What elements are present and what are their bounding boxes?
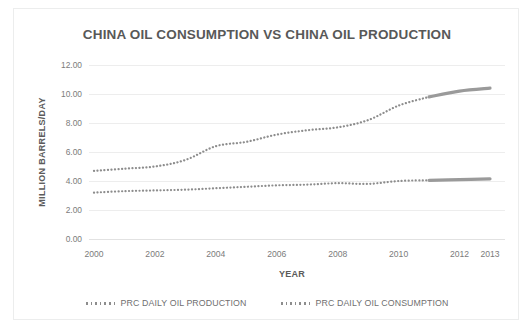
legend-swatch-consumption — [281, 302, 311, 305]
legend-label-production: PRC DAILY OIL PRODUCTION — [121, 298, 247, 308]
y-axis-tick-label: 12.00 — [61, 60, 82, 70]
x-axis-tick-label: 2010 — [389, 249, 408, 259]
x-axis-tick-label: 2008 — [328, 249, 347, 259]
x-axis-tick-label: 2004 — [206, 249, 225, 259]
y-axis-tick-label: 10.00 — [61, 89, 82, 99]
y-axis-tick-label: 0.00 — [66, 234, 83, 244]
y-axis-tick-label: 2.00 — [66, 205, 83, 215]
y-axis-tick-label: 8.00 — [66, 118, 83, 128]
y-axis-tick-label: 6.00 — [66, 147, 83, 157]
x-axis-tick-label: 2012 — [450, 249, 469, 259]
chart-legend: PRC DAILY OIL PRODUCTION PRC DAILY OIL C… — [14, 298, 520, 308]
x-axis-tick-label: 2002 — [145, 249, 164, 259]
x-axis-title: YEAR — [279, 269, 305, 279]
y-axis-tick-label: 4.00 — [66, 176, 83, 186]
x-axis-tick-label: 2006 — [267, 249, 286, 259]
legend-swatch-production — [86, 302, 116, 305]
chart-plot-area: 12.0010.008.006.004.002.000.002000200220… — [1, 1, 532, 336]
legend-label-consumption: PRC DAILY OIL CONSUMPTION — [316, 298, 449, 308]
legend-item-consumption[interactable]: PRC DAILY OIL CONSUMPTION — [281, 298, 449, 308]
y-axis-title: MILLION BARRELS/DAY — [37, 97, 47, 206]
series-line-consumption-recent — [429, 88, 490, 97]
series-line-consumption — [94, 97, 429, 171]
legend-item-production[interactable]: PRC DAILY OIL PRODUCTION — [86, 298, 247, 308]
chart-container: CHINA OIL CONSUMPTION VS CHINA OIL PRODU… — [13, 8, 519, 320]
x-axis-tick-label: 2013 — [480, 249, 499, 259]
series-line-production-recent — [429, 179, 490, 180]
series-line-production — [94, 180, 429, 192]
x-axis-tick-label: 2000 — [84, 249, 103, 259]
